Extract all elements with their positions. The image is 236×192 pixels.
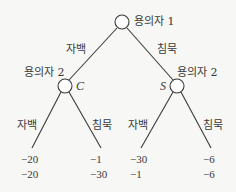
- payoff-confess-silent: −1 −30: [90, 152, 107, 182]
- payoff-p2: −1: [130, 167, 147, 182]
- payoff-p2: −6: [203, 167, 215, 182]
- root-node-circle: [115, 15, 129, 29]
- payoff-p2: −20: [21, 167, 38, 182]
- payoff-confess-confess: −20 −20: [21, 152, 38, 182]
- payoff-p1: −20: [21, 152, 38, 167]
- branch-label-ll: 자백: [17, 120, 37, 132]
- left-node-player-label: 용의자 2: [24, 67, 65, 79]
- right-node-player-label: 용의자 2: [177, 67, 218, 79]
- branch-label-rl: 자백: [128, 120, 148, 132]
- payoff-silent-confess: −30 −1: [130, 152, 147, 182]
- payoff-silent-silent: −6 −6: [203, 152, 215, 182]
- right-node-mark: S: [160, 80, 166, 92]
- right-node-circle: [170, 79, 184, 93]
- left-node-mark: C: [76, 80, 84, 92]
- branch-label-confess: 자백: [66, 44, 86, 56]
- payoff-p1: −30: [130, 152, 147, 167]
- left-node-circle: [58, 79, 72, 93]
- payoff-p2: −30: [90, 167, 107, 182]
- root-player-label: 용의자 1: [134, 16, 175, 28]
- payoff-p1: −6: [203, 152, 215, 167]
- branch-label-silent: 침묵: [157, 44, 177, 56]
- payoff-p1: −1: [90, 152, 107, 167]
- branch-label-rr: 침묵: [203, 120, 223, 132]
- branch-label-lr: 침묵: [92, 120, 112, 132]
